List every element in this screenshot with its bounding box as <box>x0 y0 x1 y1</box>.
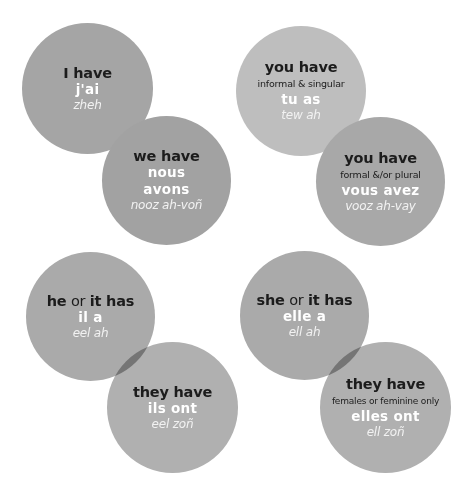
french-phrase: elles ont <box>351 408 419 425</box>
french-phrase: elle a <box>283 308 326 325</box>
french-phrase: ils ont <box>148 400 197 417</box>
french-phrase: j'ai <box>76 81 100 98</box>
english-heading: we have <box>133 148 199 164</box>
pronunciation: eel zoñ <box>152 417 194 432</box>
english-heading: you have <box>344 150 417 166</box>
pronunciation: ell zoñ <box>367 425 405 440</box>
usage-note: females or feminine only <box>332 394 439 408</box>
english-heading: they have <box>133 384 212 400</box>
pronunciation: tew ah <box>281 108 320 123</box>
heading-part: it has <box>90 293 135 309</box>
heading-part: she <box>257 292 285 308</box>
french-phrase: il a <box>78 309 102 326</box>
english-heading: you have <box>265 59 338 75</box>
card-you-have-formal: you have formal &/or plural vous avez vo… <box>316 117 445 246</box>
heading-connector: or <box>285 292 308 308</box>
english-heading: she or it has <box>257 292 353 308</box>
pronunciation: nooz ah-voñ <box>131 198 203 213</box>
french-phrase: nous avons <box>132 164 202 198</box>
pronunciation: zheh <box>73 98 101 113</box>
card-we-have: we have nous avons nooz ah-voñ <box>102 116 231 245</box>
card-they-have-elles: they have females or feminine only elles… <box>320 342 451 473</box>
card-they-have-ils: they have ils ont eel zoñ <box>107 342 238 473</box>
english-heading: he or it has <box>47 293 135 309</box>
heading-connector: or <box>67 293 90 309</box>
usage-note: formal &/or plural <box>340 168 420 182</box>
french-phrase: tu as <box>281 91 320 108</box>
usage-note: informal & singular <box>258 77 345 91</box>
english-heading: they have <box>346 376 425 392</box>
heading-part: it has <box>308 292 353 308</box>
pronunciation: eel ah <box>73 326 109 341</box>
pronunciation: vooz ah-vay <box>345 199 416 214</box>
heading-part: he <box>47 293 67 309</box>
english-heading: I have <box>63 65 112 81</box>
french-phrase: vous avez <box>341 182 419 199</box>
pronunciation: ell ah <box>289 325 321 340</box>
